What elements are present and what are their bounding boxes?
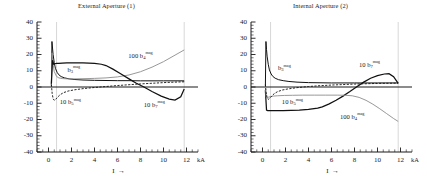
svg-text:→: → (118, 167, 125, 175)
curve-100-b4-mag (51, 50, 184, 85)
x-axis-label: I→ (326, 167, 339, 175)
y-tick-label: 10 (26, 66, 34, 74)
svg-text:I: I (112, 167, 115, 175)
y-tick-label: -10 (238, 99, 248, 107)
y-tick-label: 20 (26, 50, 34, 58)
svg-text:100 b4mag: 100 b4mag (340, 111, 365, 121)
x-axis-label: I→ (112, 167, 125, 175)
y-tick-label: -30 (238, 131, 248, 139)
y-tick-label: -10 (24, 99, 34, 107)
x-tick-label: 2 (284, 156, 288, 164)
y-tick-label: 0 (30, 83, 34, 91)
x-tick-label: 4 (93, 156, 97, 164)
y-tick-label: -20 (24, 115, 34, 123)
x-tick-label: 6 (116, 156, 120, 164)
plot-internal-aperture: 403020100-10-20-30-40024681012kAI→b3mag1… (214, 0, 427, 183)
y-tick-label: -20 (238, 115, 248, 123)
curve-label: b3mag (67, 64, 81, 74)
curve-label: 100 b4mag (128, 50, 153, 60)
svg-text:I: I (326, 167, 329, 175)
x-tick-label: 10 (160, 156, 168, 164)
x-tick-label: 2 (70, 156, 74, 164)
y-tick-label: 0 (244, 83, 248, 91)
x-axis-unit: kA (411, 156, 419, 163)
figure-two-panel-harmonics: External Aperture (1) 403020100-10-20-30… (0, 0, 427, 183)
x-tick-label: 6 (330, 156, 334, 164)
curve-b3-mag (51, 42, 184, 87)
x-tick-label: 0 (261, 156, 265, 164)
y-tick-label: -40 (238, 148, 248, 156)
y-tick-label: 40 (240, 18, 248, 26)
x-tick-label: 10 (374, 156, 382, 164)
x-axis-unit: kA (197, 156, 205, 163)
curve-label: 10 b7mag (144, 99, 166, 109)
x-tick-label: 12 (183, 156, 191, 164)
panel-internal-aperture: Internal Aperture (2) 403020100-10-20-30… (214, 0, 427, 183)
svg-text:10 b7mag: 10 b7mag (144, 99, 166, 109)
svg-text:10 b5mag: 10 b5mag (60, 97, 82, 107)
x-tick-label: 8 (353, 156, 357, 164)
curve-10-b7-mag (265, 74, 398, 111)
x-tick-label: 4 (307, 156, 311, 164)
y-tick-label: 40 (26, 18, 34, 26)
curve-label: 100 b4mag (340, 111, 365, 121)
x-tick-label: 0 (47, 156, 51, 164)
curve-label: 10 b5mag (282, 97, 304, 107)
svg-text:→: → (332, 167, 339, 175)
y-tick-label: 30 (240, 34, 248, 42)
plot-external-aperture: 403020100-10-20-30-40024681012kAI→100 b4… (0, 0, 213, 183)
curve-label: b3mag (278, 63, 292, 73)
x-tick-label: 8 (139, 156, 143, 164)
plot-area-external: 403020100-10-20-30-40024681012kAI→100 b4… (24, 18, 206, 175)
svg-text:10 b5mag: 10 b5mag (282, 97, 304, 107)
x-tick-label: 12 (397, 156, 405, 164)
svg-text:b3mag: b3mag (67, 64, 81, 74)
plot-area-internal: 403020100-10-20-30-40024681012kAI→b3mag1… (238, 18, 420, 175)
panel-external-aperture: External Aperture (1) 403020100-10-20-30… (0, 0, 213, 183)
curve-label: 10 b7mag (359, 59, 381, 69)
y-tick-label: -40 (24, 148, 34, 156)
svg-text:100 b4mag: 100 b4mag (128, 50, 153, 60)
y-tick-label: 10 (240, 66, 248, 74)
svg-text:b3mag: b3mag (278, 63, 292, 73)
y-tick-label: -30 (24, 131, 34, 139)
y-tick-label: 20 (240, 50, 248, 58)
curve-10-b5-mag (265, 83, 398, 99)
svg-text:10 b7mag: 10 b7mag (359, 59, 381, 69)
y-tick-label: 30 (26, 34, 34, 42)
curve-label: 10 b5mag (60, 97, 82, 107)
